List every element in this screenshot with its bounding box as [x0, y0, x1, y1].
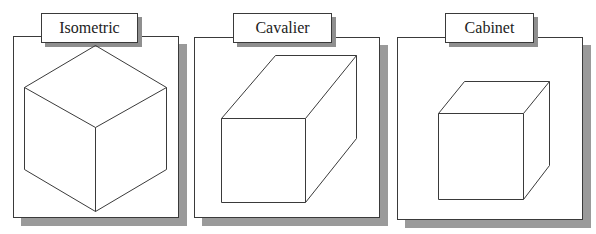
cube-edge — [439, 82, 550, 114]
cabinet-cube — [439, 82, 550, 200]
cube-edge — [439, 114, 524, 200]
cube-edge — [306, 56, 357, 203]
cube-edge — [524, 82, 550, 200]
cube-drawings — [0, 0, 596, 234]
cube-edge — [25, 88, 167, 128]
isometric-cube — [25, 46, 167, 212]
projection-diagram: Isometric Cavalier Cabinet — [0, 0, 596, 234]
cavalier-cube — [222, 56, 357, 203]
cube-edge — [222, 56, 357, 119]
cube-edge — [222, 119, 306, 203]
